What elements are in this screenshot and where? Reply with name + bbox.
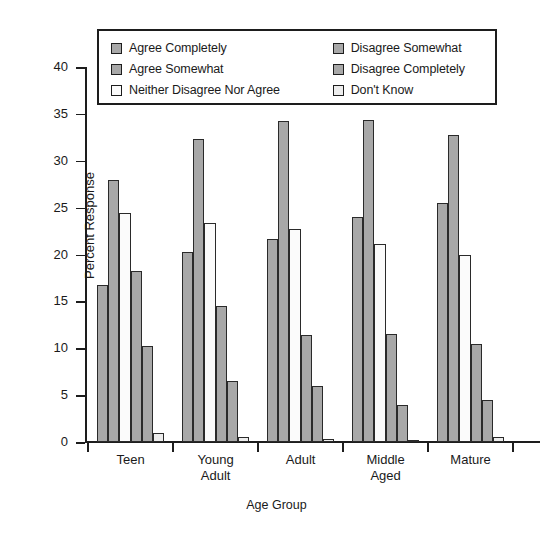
y-axis-tick-label: 40 bbox=[28, 59, 68, 74]
bar bbox=[374, 244, 385, 442]
y-axis-tick-label: 5 bbox=[28, 387, 68, 402]
bar bbox=[97, 285, 108, 443]
y-axis-tick-label: 10 bbox=[28, 340, 68, 355]
bar bbox=[363, 120, 374, 442]
y-axis-tick-label: 25 bbox=[28, 200, 68, 215]
bar-chart-figure: Agree Completely Agree Somewhat Neither … bbox=[0, 0, 553, 546]
bar bbox=[437, 203, 448, 442]
bar bbox=[323, 439, 334, 442]
legend-swatch-icon bbox=[333, 43, 344, 54]
legend-item-agree-completely: Agree Completely bbox=[111, 38, 333, 58]
legend-label: Disagree Somewhat bbox=[351, 42, 462, 55]
x-axis-tick bbox=[342, 443, 344, 452]
bar bbox=[493, 437, 504, 442]
y-axis-tick bbox=[76, 442, 85, 444]
plot-area: Percent Response bbox=[85, 60, 540, 450]
bar bbox=[459, 255, 470, 443]
y-axis-tick-label: 30 bbox=[28, 153, 68, 168]
bar bbox=[289, 229, 300, 442]
bar bbox=[408, 440, 419, 442]
bar bbox=[471, 344, 482, 442]
bar bbox=[227, 381, 238, 442]
y-axis-tick-label: 0 bbox=[28, 434, 68, 449]
bar bbox=[238, 437, 249, 442]
bar bbox=[182, 252, 193, 442]
bar bbox=[204, 223, 215, 442]
bar bbox=[142, 346, 153, 442]
bar bbox=[482, 400, 493, 442]
bar bbox=[108, 180, 119, 443]
bar bbox=[131, 271, 142, 442]
bar bbox=[153, 433, 164, 442]
y-axis-tick-label: 35 bbox=[28, 106, 68, 121]
bar bbox=[193, 139, 204, 442]
x-axis-group-label: Mature bbox=[421, 452, 521, 468]
bar bbox=[267, 239, 278, 442]
bar bbox=[397, 405, 408, 443]
x-axis-title: Age Group bbox=[0, 498, 553, 512]
legend-label: Agree Completely bbox=[129, 42, 227, 55]
y-axis-tick-label: 20 bbox=[28, 247, 68, 262]
bar bbox=[448, 135, 459, 442]
bar bbox=[386, 334, 397, 442]
bar bbox=[216, 306, 227, 442]
bar bbox=[119, 213, 130, 442]
x-axis-tick bbox=[172, 443, 174, 452]
bar bbox=[278, 121, 289, 442]
bar bbox=[312, 386, 323, 442]
bar bbox=[352, 217, 363, 442]
bars-layer bbox=[85, 60, 540, 442]
x-axis-tick bbox=[512, 443, 514, 452]
bar bbox=[301, 335, 312, 442]
legend-swatch-icon bbox=[111, 43, 122, 54]
x-axis-tick bbox=[427, 443, 429, 452]
y-axis-title: Percent Response bbox=[82, 36, 97, 416]
x-axis-tick bbox=[87, 443, 89, 452]
legend-item-disagree-somewhat: Disagree Somewhat bbox=[333, 38, 495, 58]
y-axis-tick-label: 15 bbox=[28, 293, 68, 308]
x-axis-tick bbox=[257, 443, 259, 452]
